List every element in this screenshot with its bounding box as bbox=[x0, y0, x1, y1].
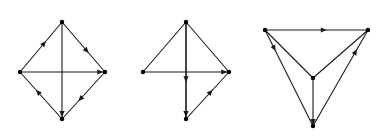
edge-d bbox=[20, 22, 62, 72]
edge-a bbox=[313, 30, 368, 126]
edge-arrowhead-e bbox=[321, 27, 327, 32]
edge-line-b bbox=[313, 30, 368, 78]
edge-e bbox=[265, 27, 368, 32]
edge-line-c bbox=[265, 30, 313, 126]
vertex-left[interactable] bbox=[141, 70, 145, 74]
edge-arrowhead-e bbox=[221, 69, 227, 74]
edge-a bbox=[186, 72, 229, 119]
edge-b bbox=[186, 22, 229, 72]
edge-line-c bbox=[20, 72, 62, 119]
edge-line-a bbox=[62, 72, 105, 119]
vertex-bottom[interactable] bbox=[311, 124, 315, 128]
edge-b bbox=[62, 22, 105, 72]
vertex-topleft[interactable] bbox=[263, 28, 267, 32]
edge-line-a bbox=[186, 72, 229, 119]
edge-d bbox=[265, 30, 313, 78]
diagram-1 bbox=[18, 20, 107, 121]
vertex-topright[interactable] bbox=[366, 28, 370, 32]
edge-d bbox=[143, 22, 186, 72]
edge-c bbox=[265, 30, 313, 126]
edge-line-a bbox=[313, 30, 368, 126]
edge-c bbox=[20, 72, 62, 119]
edge-a bbox=[62, 72, 105, 119]
edge-f bbox=[59, 22, 64, 119]
edge-line-b bbox=[186, 22, 229, 72]
diagram-3 bbox=[263, 27, 370, 128]
vertex-right[interactable] bbox=[103, 70, 107, 74]
edge-line-b bbox=[62, 22, 105, 72]
figure-canvas bbox=[0, 0, 380, 139]
vertex-top[interactable] bbox=[60, 20, 64, 24]
edge-line-d bbox=[143, 22, 186, 72]
vertex-top[interactable] bbox=[184, 20, 188, 24]
edge-arrowhead-e bbox=[97, 69, 103, 74]
diagram-2 bbox=[141, 20, 231, 121]
signed-graph-figure bbox=[0, 0, 380, 139]
edge-b bbox=[313, 30, 368, 78]
edge-line-d bbox=[20, 22, 62, 72]
vertex-right[interactable] bbox=[227, 70, 231, 74]
edge-f bbox=[183, 22, 188, 119]
vertex-bottom[interactable] bbox=[60, 117, 64, 121]
edge-arrowhead-f bbox=[183, 111, 188, 117]
vertex-bottom[interactable] bbox=[184, 117, 188, 121]
edge-f bbox=[310, 78, 315, 126]
edge-line-d bbox=[265, 30, 313, 78]
vertex-center[interactable] bbox=[311, 76, 315, 80]
vertex-left[interactable] bbox=[18, 70, 22, 74]
